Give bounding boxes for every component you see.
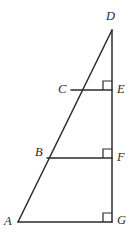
right-angle-mark-G xyxy=(103,213,112,222)
vertex-label-B: B xyxy=(35,146,43,159)
vertex-label-F: F xyxy=(117,151,125,164)
geometry-figure: D E C F B G A xyxy=(0,0,138,240)
vertex-label-E: E xyxy=(117,83,125,96)
vertex-label-G: G xyxy=(117,214,126,227)
vertex-label-C: C xyxy=(58,83,66,96)
geometry-canvas xyxy=(0,0,138,240)
right-angle-mark-F xyxy=(103,149,112,158)
right-angle-mark-E xyxy=(103,81,112,90)
segment-AD xyxy=(18,30,112,222)
vertex-label-A: A xyxy=(4,215,12,228)
vertex-label-D: D xyxy=(106,10,115,23)
